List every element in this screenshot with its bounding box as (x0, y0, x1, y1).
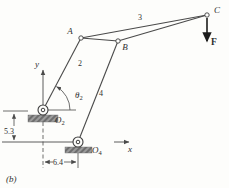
joint-a-label: A (66, 26, 73, 36)
link-2-label: 2 (78, 59, 82, 68)
joint-b-label: B (122, 42, 128, 52)
pivot-o2-pin-center (41, 108, 45, 112)
linkage-diagram-svg: A B C 3 2 4 O2 O4 θ2 y x F 5.3 6.4 (b) (0, 0, 229, 188)
linkage-figure: A B C 3 2 4 O2 O4 θ2 y x F 5.3 6.4 (b) (0, 0, 229, 188)
ground-block-o4 (65, 147, 92, 153)
figure-background (0, 0, 229, 188)
ground-block-o2 (28, 115, 58, 122)
joint-c-pin (205, 13, 209, 17)
force-label: F (211, 37, 217, 47)
joint-c-label: C (214, 5, 221, 15)
figure-caption-label: (b) (6, 174, 17, 184)
x-axis-label: x (127, 144, 132, 154)
joint-a-pin (79, 36, 83, 40)
joint-b-pin (116, 39, 120, 43)
link-3-label: 3 (138, 13, 142, 22)
link-4-label: 4 (99, 89, 103, 98)
y-axis-label: y (34, 59, 39, 69)
dim-6-4-label: 6.4 (53, 158, 63, 167)
dim-5-3-label: 5.3 (4, 127, 14, 136)
pivot-o4-pin-center (76, 140, 80, 144)
